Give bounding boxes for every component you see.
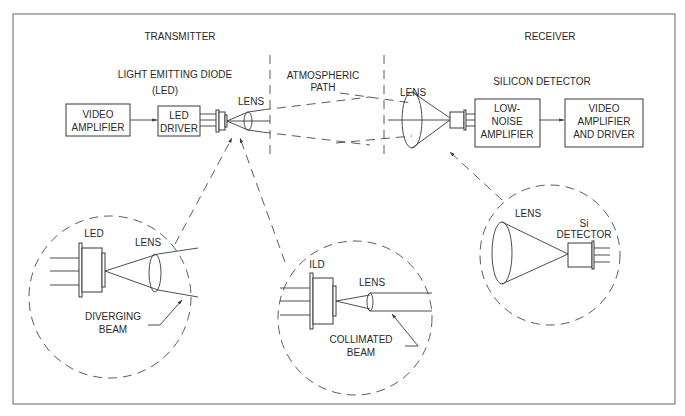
tx-lens-label: LENS <box>238 96 264 107</box>
si-detector-icon <box>450 110 475 130</box>
led-inset-source-label: LED <box>84 228 103 239</box>
ild-inset-beam-label-2: BEAM <box>347 347 375 358</box>
svg-text:DRIVER: DRIVER <box>160 123 198 134</box>
callout-led-inset <box>175 138 232 244</box>
callout-detector-inset <box>450 152 502 200</box>
svg-text:VIDEO: VIDEO <box>82 109 113 120</box>
led-driver-block: LED DRIVER <box>158 106 200 136</box>
low-noise-amplifier-block: LOW- NOISE AMPLIFIER <box>475 99 540 147</box>
receiver-title: RECEIVER <box>524 31 575 42</box>
ild-inset-beam-label-1: COLLIMATED <box>329 334 392 345</box>
atmospheric-label-line1: ATMOSPHERIC <box>287 70 360 81</box>
led-inset-beam-label-2: BEAM <box>99 324 127 335</box>
silicon-detector-label: SILICON DETECTOR <box>493 76 591 87</box>
led-label-line2: (LED) <box>152 85 178 96</box>
detector-inset-label-2: DETECTOR <box>557 229 612 240</box>
svg-text:VIDEO: VIDEO <box>588 103 619 114</box>
svg-text:AMPLIFIER: AMPLIFIER <box>72 122 125 133</box>
atmospheric-label-line2: PATH <box>310 82 335 93</box>
svg-text:LED: LED <box>169 110 188 121</box>
led-inset-lens-label: LENS <box>135 237 161 248</box>
ild-inset: ILD LENS COLLIMATED BEAM <box>278 241 432 395</box>
optical-link-diagram: TRANSMITTER RECEIVER LIGHT EMITTING DIOD… <box>0 0 685 416</box>
callout-ild-inset <box>240 138 285 262</box>
svg-text:NOISE: NOISE <box>491 116 522 127</box>
svg-text:AND DRIVER: AND DRIVER <box>573 129 635 140</box>
video-amplifier-and-driver-block: VIDEO AMPLIFIER AND DRIVER <box>565 99 643 147</box>
svg-text:LOW-: LOW- <box>494 103 520 114</box>
ild-inset-lens-label: LENS <box>359 277 385 288</box>
transmitter-title: TRANSMITTER <box>144 31 215 42</box>
atmospheric-beam <box>262 93 412 145</box>
svg-text:AMPLIFIER: AMPLIFIER <box>578 116 631 127</box>
svg-text:AMPLIFIER: AMPLIFIER <box>481 129 534 140</box>
detector-inset-label-1: Si <box>580 218 589 229</box>
led-inset-beam-label-1: DIVERGING <box>85 311 141 322</box>
ild-inset-source-label: ILD <box>309 259 325 270</box>
led-inset: LED LENS DIVERGING BEAM <box>29 216 198 378</box>
led-emitter-icon <box>200 110 227 132</box>
detector-inset: LENS Si DETECTOR <box>480 185 620 325</box>
led-label-line1: LIGHT EMITTING DIODE <box>118 69 233 80</box>
detector-inset-lens-label: LENS <box>515 208 541 219</box>
video-amplifier-block: VIDEO AMPLIFIER <box>66 104 130 136</box>
